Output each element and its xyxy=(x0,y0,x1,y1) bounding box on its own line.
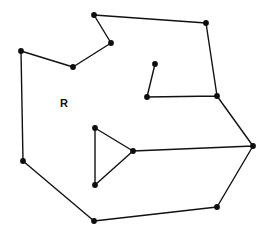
vertex-left-upper xyxy=(18,48,24,54)
region-label-r: R xyxy=(60,97,68,109)
vertex-top xyxy=(91,12,97,18)
vertex-bottom-right xyxy=(214,204,220,210)
vertex-spike-tip xyxy=(152,61,158,67)
vertex-triangle-bottom xyxy=(92,182,98,188)
diagram-canvas: R xyxy=(0,0,270,235)
vertex-left-lower xyxy=(20,158,26,164)
vertex-notch-bottom xyxy=(70,64,76,70)
vertex-right-far xyxy=(250,143,256,149)
vertex-notch-right xyxy=(108,40,114,46)
vertex-triangle-apex xyxy=(130,148,136,154)
region-r-boundary-path xyxy=(21,15,253,221)
vertex-bottom xyxy=(91,218,97,224)
vertex-right-upper xyxy=(214,93,220,99)
polygon-diagram-svg: R xyxy=(0,0,270,235)
vertex-triangle-top xyxy=(92,125,98,131)
vertex-top-right xyxy=(203,20,209,26)
vertex-dot-group xyxy=(18,12,256,224)
vertex-spike-base xyxy=(144,94,150,100)
